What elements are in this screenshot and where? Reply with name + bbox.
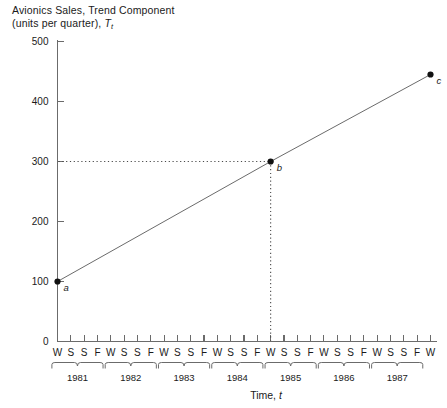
x-axis-quarter-label: S [334,347,341,358]
x-axis-quarter-label: F [201,347,207,358]
data-point-a [54,278,60,284]
x-axis-year-label: 1982 [120,372,141,383]
x-axis-quarter-label: W [372,347,382,358]
x-axis-quarter-label: S [67,347,74,358]
x-axis-title: Time, t [250,389,283,401]
x-axis-quarter-label: F [254,347,260,358]
x-axis-quarter-label: F [94,347,100,358]
y-axis-tick-label: 400 [32,96,49,107]
x-axis-year-label: 1986 [333,372,354,383]
x-axis-year-label: 1983 [173,372,194,383]
chart-canvas: Avionics Sales, Trend Component (units p… [0,0,447,408]
x-axis-quarter-label: S [134,347,141,358]
x-axis-quarter-label: W [266,347,276,358]
year-brace [265,363,316,369]
y-axis-tick-label: 500 [32,36,49,47]
x-axis-year-label: 1984 [227,372,248,383]
x-axis-quarter-label: S [174,347,181,358]
x-axis-quarter-label: W [106,347,116,358]
year-brace [105,363,156,369]
x-axis-quarter-label: F [361,347,367,358]
year-brace [212,363,263,369]
x-axis-year-label: 1985 [280,372,301,383]
x-axis-quarter-label: S [294,347,301,358]
x-axis-quarter-label: S [401,347,408,358]
year-brace [52,363,103,369]
chart-plot-area: 0100200300400500WSSFWSSFWSSFWSSFWSSFWSSF… [0,0,447,408]
x-axis-quarter-label: S [121,347,128,358]
year-brace [372,363,423,369]
x-axis-quarter-label: F [148,347,154,358]
data-point-label-b: b [277,162,282,173]
data-point-b [268,158,274,164]
x-axis-quarter-label: S [387,347,394,358]
x-axis-quarter-label: W [159,347,169,358]
x-axis-quarter-label: W [53,347,63,358]
x-axis-quarter-label: S [81,347,88,358]
y-axis-tick-label: 200 [32,216,49,227]
trend-line [58,75,431,282]
data-point-label-c: c [437,75,442,86]
x-axis-quarter-label: S [281,347,288,358]
year-brace [318,363,369,369]
y-axis-tick-label: 100 [32,276,49,287]
x-axis-quarter-label: W [213,347,223,358]
x-axis-quarter-label: S [187,347,194,358]
x-axis-quarter-label: S [227,347,234,358]
x-axis-quarter-label: F [414,347,420,358]
year-brace [158,363,209,369]
data-point-label-a: a [64,282,69,293]
y-axis-tick-label: 300 [32,156,49,167]
x-axis-quarter-label: W [319,347,329,358]
y-axis-tick-label: 0 [43,336,49,347]
x-axis-quarter-label: S [347,347,354,358]
x-axis-year-label: 1981 [67,372,88,383]
data-point-c [427,71,433,77]
x-axis-quarter-label: S [241,347,248,358]
x-axis-quarter-label: F [308,347,314,358]
x-axis-quarter-label: W [426,347,436,358]
x-axis-year-label: 1987 [387,372,408,383]
